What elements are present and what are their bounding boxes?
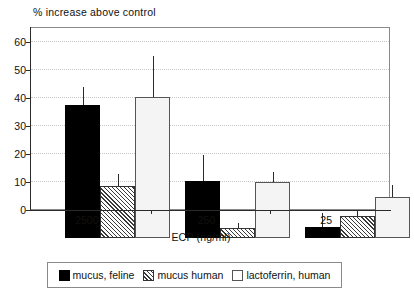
x-tick-label: 2500 — [57, 214, 117, 226]
gridline — [31, 41, 389, 42]
bar — [135, 97, 170, 238]
error-bar — [203, 155, 204, 180]
x-tick-label: 25 — [296, 214, 356, 226]
legend-label: lactoferrin, human — [246, 269, 330, 281]
error-bar — [83, 87, 84, 105]
chart-title: % increase above control — [33, 6, 156, 18]
legend-swatch-solid-icon — [59, 270, 70, 281]
y-tick-label: 60 — [2, 36, 26, 48]
legend-item-mucus-human: mucus human — [143, 269, 223, 281]
x-tick-label: 250 — [177, 214, 237, 226]
x-tick-mark — [151, 210, 152, 214]
y-tick-mark — [26, 126, 30, 127]
y-axis-line — [30, 27, 31, 211]
y-tick-mark — [26, 210, 30, 211]
legend-label: mucus, feline — [73, 269, 135, 281]
legend-item-mucus-feline: mucus, feline — [59, 269, 135, 281]
error-bar — [118, 174, 119, 187]
legend-label: mucus human — [157, 269, 223, 281]
y-tick-mark — [26, 42, 30, 43]
x-axis-line — [30, 210, 391, 211]
y-tick-mark — [26, 182, 30, 183]
error-bar — [273, 172, 274, 182]
y-tick-label: 50 — [2, 64, 26, 76]
plot-area — [30, 27, 390, 210]
y-tick-mark — [26, 154, 30, 155]
y-tick-mark — [26, 70, 30, 71]
y-tick-mark — [26, 98, 30, 99]
chart-legend: mucus, feline mucus human lactoferrin, h… — [47, 262, 342, 288]
y-tick-label: 10 — [2, 176, 26, 188]
x-axis-title: ECP (ng/ml) — [0, 231, 402, 243]
y-tick-label: 20 — [2, 148, 26, 160]
legend-swatch-dots-icon — [232, 270, 243, 281]
legend-item-lactoferrin-human: lactoferrin, human — [232, 269, 330, 281]
y-tick-label: 40 — [2, 92, 26, 104]
y-tick-label: 0 — [2, 204, 26, 216]
y-tick-label: 30 — [2, 120, 26, 132]
error-bar — [153, 56, 154, 97]
error-bar — [238, 223, 239, 229]
x-tick-mark — [270, 210, 271, 214]
error-bar — [392, 185, 393, 198]
legend-swatch-hatch-icon — [143, 270, 154, 281]
